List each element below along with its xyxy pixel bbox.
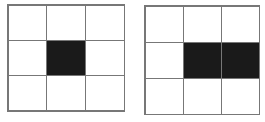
empty-cell-r2-c0 — [145, 78, 184, 115]
empty-cell-r0-c0 — [8, 5, 48, 41]
empty-cell-r2-c2 — [221, 78, 260, 115]
empty-cell-r0-c2 — [85, 5, 125, 41]
empty-cell-r0-c1 — [183, 6, 222, 43]
filled-cell-r1-c2 — [221, 42, 260, 79]
empty-cell-r0-c0 — [145, 6, 184, 43]
empty-cell-r2-c1 — [46, 75, 86, 111]
filled-cell-r1-c1 — [183, 42, 222, 79]
empty-cell-r2-c2 — [85, 75, 125, 111]
empty-cell-r2-c0 — [8, 75, 48, 111]
empty-cell-r2-c1 — [183, 78, 222, 115]
empty-cell-r0-c2 — [221, 6, 260, 43]
empty-cell-r0-c1 — [46, 5, 86, 41]
empty-cell-r1-c2 — [85, 40, 125, 76]
empty-cell-r1-c0 — [145, 42, 184, 79]
grid-left — [7, 4, 125, 112]
grid-right — [144, 5, 260, 115]
empty-cell-r1-c0 — [8, 40, 48, 76]
filled-cell-r1-c1 — [46, 40, 86, 76]
